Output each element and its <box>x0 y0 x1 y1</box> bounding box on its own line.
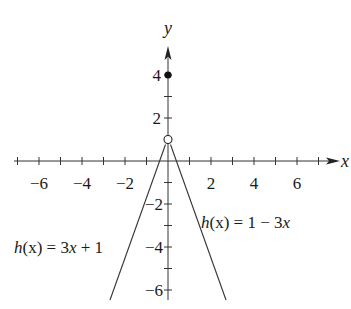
y-tick-label: 4 <box>153 66 162 85</box>
y-tick-label: −4 <box>145 238 164 257</box>
closed-point-marker <box>164 71 171 78</box>
x-tick-label: 2 <box>207 174 216 193</box>
y-axis: y 4 2 −2 −4 −6 <box>145 18 172 300</box>
x-tick-label: −6 <box>30 174 48 193</box>
x-axis: x −6 −4 −2 2 4 6 <box>14 151 349 193</box>
y-tick-label: 2 <box>153 109 162 128</box>
y-axis-arrow-icon <box>165 46 172 60</box>
line-3x-plus-1 <box>110 145 166 301</box>
y-axis-label: y <box>162 18 172 38</box>
x-tick-label: −2 <box>116 174 134 193</box>
y-tick-label: −2 <box>145 195 163 214</box>
x-tick-label: −4 <box>73 174 92 193</box>
open-point-marker <box>164 136 172 144</box>
x-axis-label: x <box>340 151 349 171</box>
graph-figure: x −6 −4 −2 2 4 6 y 4 2 −2 −4 −6 <box>0 0 351 309</box>
equation-label-left: h(x) = 3x + 1 <box>14 238 103 257</box>
equation-label-right: h(x) = 1 − 3x <box>201 213 291 232</box>
graph-canvas: x −6 −4 −2 2 4 6 y 4 2 −2 −4 −6 <box>0 0 351 309</box>
x-tick-label: 4 <box>250 174 259 193</box>
x-tick-label: 6 <box>293 174 302 193</box>
y-tick-label: −6 <box>145 281 163 300</box>
